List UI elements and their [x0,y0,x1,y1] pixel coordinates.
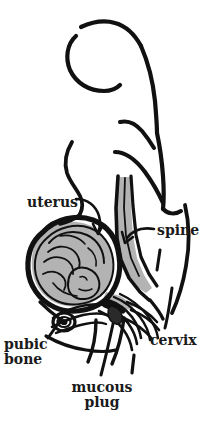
front-thigh-line [88,320,96,362]
cervix-leader-line [157,250,160,270]
mucous-plug-tick [132,355,134,373]
label-pubic-bone-line2: bone [4,352,48,367]
label-spine: spine [157,223,199,238]
label-cervix: cervix [150,333,197,348]
back-waist-line [120,121,154,148]
pregnancy-anatomy-diagram: uterus spine cervix pubic bone mucous pl… [0,0,214,430]
label-mucous-plug-line2: plug [62,395,142,410]
cervix-leader-line-2 [165,288,172,328]
pubic-bone-leader-line [48,318,62,338]
label-mucous-plug-line1: mucous [62,380,142,395]
breast-underside-line [67,36,120,91]
back-upper-line [141,46,157,133]
pelvis-lower-line [46,336,116,352]
label-pubic-bone-line1: pubic [4,337,48,352]
label-pubic-bone: pubic bone [4,337,48,367]
label-mucous-plug: mucous plug [62,380,142,410]
breast-top-line [81,22,141,46]
thigh-back-line [163,209,181,213]
label-uterus: uterus [27,195,78,210]
